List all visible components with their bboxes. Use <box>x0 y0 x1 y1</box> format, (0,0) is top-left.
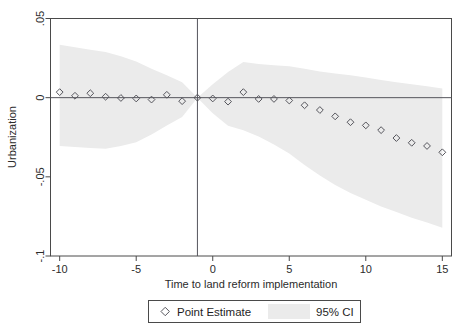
legend-ci-label: 95% CI <box>316 306 354 318</box>
legend-ci-swatch <box>268 304 310 319</box>
legend-point-estimate-label: Point Estimate <box>177 306 251 318</box>
chart-figure: .050-.05-.1 -10-5051015 Urbanization Tim… <box>0 0 471 331</box>
x-tick-label: 15 <box>436 263 448 275</box>
x-tick-label: 0 <box>210 263 216 275</box>
event-study-plot: .050-.05-.1 -10-5051015 Urbanization Tim… <box>0 0 471 331</box>
x-tick-label: 5 <box>286 263 292 275</box>
y-tick-label: 0 <box>34 95 46 101</box>
y-axis-title: Urbanization <box>6 106 18 168</box>
x-axis-title: Time to land reform implementation <box>165 278 338 290</box>
y-tick-label: .05 <box>34 11 46 26</box>
x-tick-label: 10 <box>360 263 372 275</box>
x-tick-label: -5 <box>131 263 141 275</box>
y-tick-label: -.1 <box>34 250 46 263</box>
x-tick-label: -10 <box>52 263 68 275</box>
y-tick-label: -.05 <box>34 167 46 186</box>
legend: Point Estimate 95% CI <box>149 301 361 323</box>
